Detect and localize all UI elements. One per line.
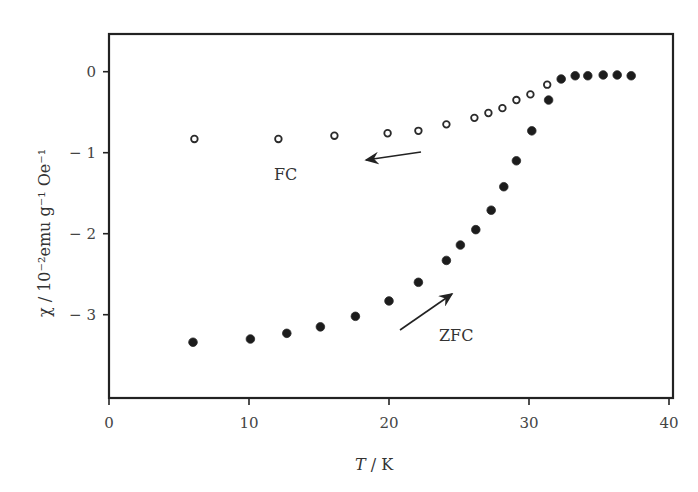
zfc-data-point <box>189 338 198 347</box>
annotations: FC ZFC <box>274 152 473 345</box>
zfc-data-point <box>613 71 622 80</box>
y-tick-label: − 1 <box>69 144 96 162</box>
fc-data-point <box>331 132 338 139</box>
x-axis-ticks: 010203040 <box>104 398 678 432</box>
data-points <box>189 71 636 347</box>
zfc-data-point <box>283 329 292 338</box>
zfc-data-point <box>500 182 509 191</box>
fc-data-point <box>544 81 551 88</box>
fc-data-point <box>415 128 422 135</box>
fc-arrow <box>366 152 421 160</box>
y-axis-title: χ / 10⁻²emu g⁻¹ Oe⁻¹ <box>35 149 54 317</box>
zfc-arrow <box>400 294 452 330</box>
zfc-data-point <box>627 71 636 80</box>
x-axis-title: T / K <box>355 455 394 474</box>
fc-data-point <box>443 121 450 128</box>
zfc-data-point <box>512 157 521 166</box>
y-tick-label: 0 <box>86 63 96 81</box>
chart-canvas: 010203040 0− 1− 2− 3 FC ZFC T / K χ / 10… <box>0 0 698 492</box>
zfc-data-point <box>487 206 496 215</box>
zfc-data-point <box>351 312 360 321</box>
zfc-data-point <box>414 278 423 287</box>
zfc-data-point <box>544 96 553 105</box>
zfc-data-point <box>316 323 325 332</box>
fc-data-point <box>499 105 506 112</box>
zfc-data-point <box>456 241 465 250</box>
zfc-data-point <box>557 75 566 84</box>
zfc-data-point <box>584 71 593 80</box>
fc-data-point <box>384 130 391 137</box>
fc-data-point <box>471 115 478 122</box>
fc-data-point <box>527 91 534 98</box>
zfc-data-point <box>528 127 537 136</box>
zfc-data-point <box>442 256 451 265</box>
fc-data-point <box>191 136 198 143</box>
fc-data-point <box>513 97 520 104</box>
y-tick-label: − 3 <box>69 306 96 324</box>
zfc-data-point <box>599 71 608 80</box>
x-tick-label: 20 <box>379 414 398 432</box>
x-tick-label: 40 <box>659 414 678 432</box>
y-tick-label: − 2 <box>69 225 96 243</box>
zfc-label: ZFC <box>439 326 473 345</box>
zfc-data-point <box>246 335 255 344</box>
fc-label: FC <box>274 165 297 184</box>
y-axis-ticks: 0− 1− 2− 3 <box>69 63 109 324</box>
fc-data-point <box>275 136 282 143</box>
x-tick-label: 0 <box>104 414 114 432</box>
x-tick-label: 30 <box>519 414 538 432</box>
x-tick-label: 10 <box>239 414 258 432</box>
zfc-data-point <box>571 71 580 80</box>
zfc-data-point <box>385 297 394 306</box>
fc-data-point <box>485 110 492 117</box>
zfc-data-point <box>472 225 481 234</box>
